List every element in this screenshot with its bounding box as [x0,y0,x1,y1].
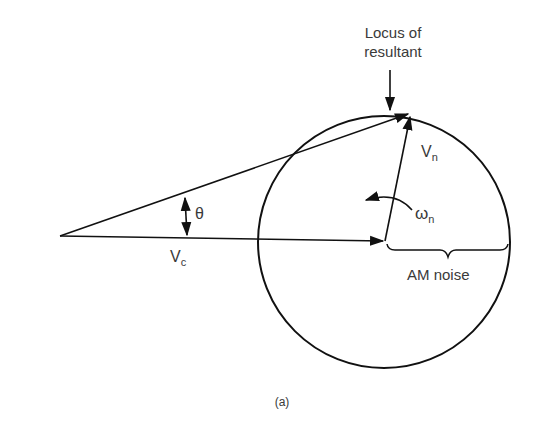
noise-phasor-vn [385,117,410,241]
theta-angle-arrow [185,198,187,235]
locus-label-line1: Locus of [365,24,423,41]
vn-label: Vn [421,143,438,163]
locus-label-line2: resultant [364,43,422,60]
vc-label: Vc [170,248,187,268]
phasor-diagram: Locus of resultant Vn Vc θ ωn AM noise (… [0,0,543,439]
rotation-arrow [366,197,412,210]
carrier-phasor-vc [60,236,383,241]
am-noise-label: AM noise [407,266,470,283]
resultant-phasor [60,114,408,236]
figure-caption: (a) [275,395,290,409]
am-noise-brace [387,244,508,257]
omega-label: ωn [415,204,434,225]
theta-label: θ [195,205,204,222]
